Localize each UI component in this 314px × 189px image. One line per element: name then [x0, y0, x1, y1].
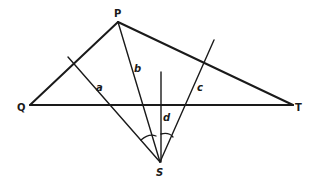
line-c: [160, 40, 214, 162]
label-d: d: [163, 113, 170, 123]
line-pt: [118, 22, 293, 105]
label-t: T: [295, 103, 302, 113]
geometry-diagram: P Q T S a b c d: [0, 0, 314, 189]
line-a: [68, 57, 160, 162]
label-s: S: [156, 168, 163, 178]
label-q: Q: [17, 103, 26, 113]
label-c: c: [197, 83, 203, 93]
label-a: a: [96, 83, 103, 93]
line-b: [118, 22, 160, 162]
label-p: P: [114, 9, 121, 19]
label-b: b: [134, 64, 141, 74]
diagram-lines: [0, 0, 314, 189]
